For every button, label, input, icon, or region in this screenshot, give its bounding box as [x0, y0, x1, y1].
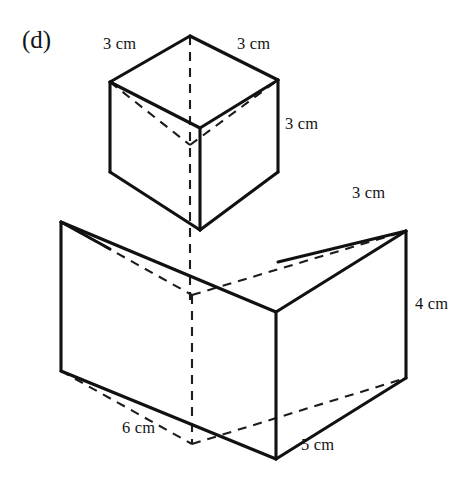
dimension-label-cuboid-width: 6 cm — [122, 420, 155, 437]
solid-faces — [61, 36, 406, 459]
part-label: (d) — [22, 27, 51, 52]
figure-canvas: (d) 3 cm 3 cm 3 cm 3 cm 4 cm 6 cm 5 cm — [0, 0, 471, 481]
dimension-label-cuboid-depth: 3 cm — [352, 185, 385, 202]
dimension-label-cuboid-height: 4 cm — [415, 296, 448, 313]
dimension-label-cube-height: 3 cm — [285, 116, 318, 133]
composite-solid-drawing — [0, 0, 471, 481]
dimension-label-cube-top-left: 3 cm — [103, 36, 136, 53]
dimension-label-cube-top-right: 3 cm — [237, 36, 270, 53]
dimension-label-cuboid-side: 5 cm — [301, 437, 334, 454]
